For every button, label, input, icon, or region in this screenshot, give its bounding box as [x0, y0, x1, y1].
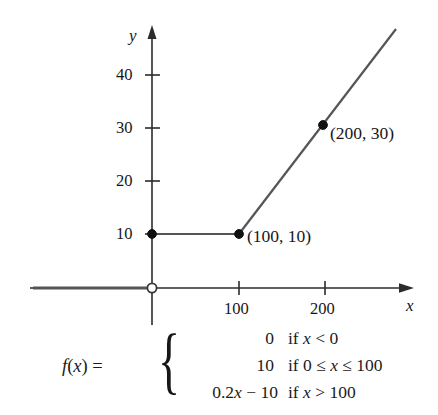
x-tick-label-200: 200	[310, 301, 335, 318]
y-tick-label-10: 10	[116, 226, 133, 243]
formula-lhs: f(x) =	[62, 356, 103, 377]
formula-lhs-var: x	[73, 356, 81, 376]
formula-condition-2: if 0 ≤ x ≤ 100	[288, 355, 383, 376]
cond-prefix-2: if 0 ≤	[288, 355, 330, 375]
formula-condition-3: if x > 100	[288, 382, 356, 403]
formula-value-3: 0.2x − 10	[212, 382, 278, 403]
data-point-markers	[147, 121, 327, 293]
formula-rows: 0 if x < 0 10 if 0 ≤ x ≤ 100 0.2x − 10 i…	[176, 328, 426, 409]
y-axis-arrow-icon	[148, 25, 157, 39]
cond-var-3: x	[303, 382, 311, 402]
y-axis-label: y	[129, 27, 137, 44]
cond-prefix-3: if	[288, 382, 303, 402]
x-axis-arrow-icon	[399, 283, 414, 293]
y-tick-label-20: 20	[116, 173, 133, 190]
cond-var-2: x	[330, 355, 338, 375]
formula-condition-1: if x < 0	[288, 328, 338, 349]
formula-row: 0.2x − 10 if x > 100	[176, 382, 426, 409]
point-200-30	[319, 121, 328, 130]
value-var-3: x	[234, 382, 242, 402]
formula-row: 10 if 0 ≤ x ≤ 100	[176, 355, 426, 382]
point-origin-open	[147, 283, 156, 292]
value-num-3: 0.2	[212, 382, 234, 402]
y-tick-label-40: 40	[116, 67, 133, 84]
point-label-200-30: (200, 30)	[330, 125, 394, 143]
y-axis	[148, 25, 157, 325]
y-tick-label-30: 30	[116, 120, 133, 137]
cond-var-1: x	[303, 328, 311, 348]
x-axis-label: x	[406, 297, 414, 314]
piecewise-function-figure: y x 40 30 20 10 100 200 (100, 10) (200, …	[0, 0, 438, 415]
cond-rest-3: > 100	[311, 382, 356, 402]
formula-value-2: 10	[257, 355, 275, 376]
cond-prefix-1: if	[288, 328, 303, 348]
piecewise-formula: f(x) = { 0 if x < 0 10 if 0 ≤ x ≤ 100 0.…	[58, 326, 428, 412]
point-100-10	[235, 230, 244, 239]
point-0-10	[148, 230, 157, 239]
formula-row: 0 if x < 0	[176, 328, 426, 355]
cond-rest-2: ≤ 100	[338, 355, 383, 375]
x-tick-label-100: 100	[224, 301, 249, 318]
function-curve	[33, 29, 396, 288]
point-label-100-10: (100, 10)	[247, 228, 311, 246]
formula-lhs-close: ) =	[82, 356, 103, 376]
cond-rest-1: < 0	[311, 328, 338, 348]
formula-value-1: 0	[265, 328, 274, 349]
value-rest-3: − 10	[242, 382, 278, 402]
